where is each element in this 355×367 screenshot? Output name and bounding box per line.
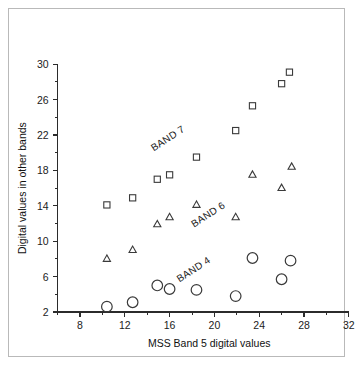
x-tick-label: 8	[77, 319, 83, 331]
series-band-6	[103, 163, 295, 261]
data-point-triangle	[288, 163, 295, 169]
x-tick-label: 20	[209, 319, 221, 331]
data-point-circle	[191, 285, 202, 296]
data-point-circle	[247, 253, 258, 264]
data-point-square	[167, 172, 173, 178]
data-point-triangle	[166, 213, 173, 219]
data-point-circle	[127, 297, 138, 308]
series-annotation-band-4: BAND 4	[175, 254, 213, 284]
x-tick-label: 32	[343, 319, 355, 331]
x-tick-label: 24	[253, 319, 265, 331]
y-axis-title: Digital values in other bands	[16, 122, 28, 254]
y-tick-label: 2	[43, 306, 49, 318]
data-point-triangle	[193, 201, 200, 207]
data-point-circle	[285, 255, 296, 266]
y-tick-label: 26	[37, 94, 49, 106]
data-point-square	[154, 176, 160, 182]
data-point-triangle	[154, 220, 161, 226]
data-point-circle	[102, 301, 113, 312]
data-point-square	[130, 195, 136, 201]
x-tick-label: 16	[164, 319, 176, 331]
y-tick-label: 22	[37, 129, 49, 141]
y-tick-label: 10	[37, 235, 49, 247]
y-tick-label: 18	[37, 164, 49, 176]
data-point-circle	[230, 291, 241, 302]
data-point-square	[233, 127, 239, 133]
data-point-square	[249, 103, 255, 109]
data-point-square	[104, 202, 110, 208]
x-tick-label: 28	[298, 319, 310, 331]
y-tick-label: 6	[43, 271, 49, 283]
data-point-square	[286, 69, 292, 75]
series-annotation-band-7: BAND 7	[149, 123, 187, 153]
y-tick-label: 30	[37, 58, 49, 70]
data-point-circle	[276, 274, 287, 285]
x-tick-label: 12	[119, 319, 131, 331]
data-point-triangle	[249, 171, 256, 177]
scatter-plot-figure: 812162024283226101418222630MSS Band 5 di…	[0, 0, 355, 367]
x-axis-title: MSS Band 5 digital values	[148, 337, 271, 349]
data-point-triangle	[278, 184, 285, 190]
y-tick-label: 14	[37, 200, 49, 212]
data-point-circle	[152, 280, 163, 291]
data-point-square	[279, 81, 285, 87]
data-point-triangle	[103, 255, 110, 261]
series-band-7	[104, 69, 293, 208]
data-point-triangle	[129, 246, 136, 252]
data-point-square	[193, 154, 199, 160]
scatter-plot-canvas: 812162024283226101418222630MSS Band 5 di…	[0, 0, 355, 367]
data-point-circle	[164, 284, 175, 295]
data-point-triangle	[232, 213, 239, 219]
